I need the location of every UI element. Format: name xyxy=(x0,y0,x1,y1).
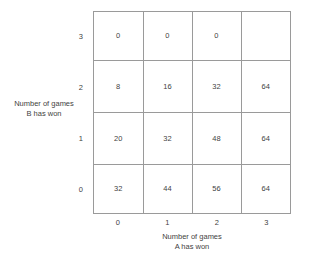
grid-cell: 16 xyxy=(143,61,192,113)
x-axis-title-line-1: Number of games xyxy=(93,232,291,242)
grid-cell: 32 xyxy=(143,112,192,164)
y-axis-title-line-2: B has won xyxy=(0,109,88,119)
y-axis-tick-3: 3 xyxy=(69,33,83,41)
y-axis-tick-2: 2 xyxy=(69,84,83,92)
grid-cell: 8 xyxy=(94,61,143,113)
y-axis-tick-1: 1 xyxy=(69,135,83,143)
grid-cell: 32 xyxy=(94,164,143,213)
x-axis-tick-3: 3 xyxy=(242,219,292,227)
x-axis-tick-2: 2 xyxy=(192,219,242,227)
grid-cell: 64 xyxy=(241,112,290,164)
grid-cell: 64 xyxy=(241,164,290,213)
y-axis-tick-0: 0 xyxy=(69,186,83,194)
y-axis-title-line-1: Number of games xyxy=(0,99,88,109)
grid-cell: 0 xyxy=(192,12,241,61)
grid-body: 0 0 0 8 16 32 64 20 32 48 64 32 44 56 xyxy=(94,12,290,213)
y-axis-title: Number of games B has won xyxy=(0,99,88,119)
grid-cell: 56 xyxy=(192,164,241,213)
grid-cell: 0 xyxy=(143,12,192,61)
x-axis-tick-0: 0 xyxy=(93,219,143,227)
grid-cell: 32 xyxy=(192,61,241,113)
table-row: 32 44 56 64 xyxy=(94,164,290,213)
table-row: 20 32 48 64 xyxy=(94,112,290,164)
payoff-grid: 0 0 0 8 16 32 64 20 32 48 64 32 44 56 xyxy=(93,11,291,214)
table-row: 8 16 32 64 xyxy=(94,61,290,113)
x-axis-tick-1: 1 xyxy=(143,219,193,227)
grid-cell: 44 xyxy=(143,164,192,213)
grid-cell xyxy=(241,12,290,61)
grid-cell: 20 xyxy=(94,112,143,164)
x-axis-title: Number of games A has won xyxy=(93,232,291,252)
x-axis-title-line-2: A has won xyxy=(93,242,291,252)
table-row: 0 0 0 xyxy=(94,12,290,61)
grid-table: 0 0 0 8 16 32 64 20 32 48 64 32 44 56 xyxy=(94,12,290,213)
grid-cell: 0 xyxy=(94,12,143,61)
grid-cell: 48 xyxy=(192,112,241,164)
grid-cell: 64 xyxy=(241,61,290,113)
